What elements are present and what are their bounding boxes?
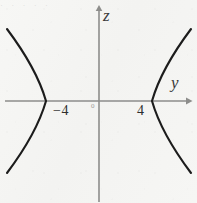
hyperbola-figure: · · · · · z y −4 0 4 [0, 0, 197, 203]
y-axis-label: y [171, 74, 179, 91]
tick-label-origin: 0 [91, 103, 95, 110]
plot-canvas [0, 0, 197, 203]
tick-label-4: 4 [137, 104, 144, 118]
z-axis-arrowhead [96, 5, 103, 11]
z-axis [96, 5, 103, 202]
z-axis-label: z [103, 7, 110, 24]
tick-label-neg-4: −4 [53, 104, 69, 118]
y-axis-arrowhead [186, 98, 193, 105]
